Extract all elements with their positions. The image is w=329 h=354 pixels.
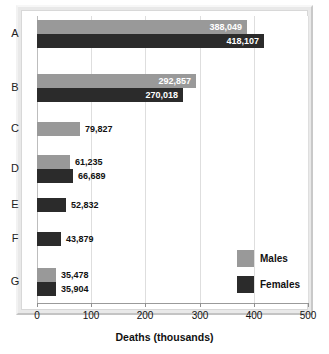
bar-value-label: 270,018 xyxy=(37,88,178,102)
bar-value-label: 35,904 xyxy=(61,282,89,296)
category-label-A: A xyxy=(0,27,30,39)
x-tick-label: 300 xyxy=(180,310,220,321)
legend-label-males: Males xyxy=(260,250,288,267)
gridline xyxy=(145,16,146,304)
bar-C-males xyxy=(37,122,80,136)
bar-value-label: 292,857 xyxy=(37,74,191,88)
category-label-F: F xyxy=(0,232,30,244)
bar-G-males xyxy=(37,268,56,282)
x-tick-mark xyxy=(91,303,92,307)
bar-value-label: 43,879 xyxy=(66,232,94,246)
category-label-G: G xyxy=(0,275,30,287)
bar-value-label: 79,827 xyxy=(85,122,113,136)
bar-D-males xyxy=(37,155,70,169)
bar-value-label: 35,478 xyxy=(61,268,89,282)
bar-F-females xyxy=(37,232,61,246)
bar-value-label: 418,107 xyxy=(37,34,259,48)
legend-swatch-females xyxy=(237,276,254,293)
category-label-D: D xyxy=(0,162,30,174)
bar-G-females xyxy=(37,282,56,296)
category-label-B: B xyxy=(0,81,30,93)
x-axis-line xyxy=(37,303,308,304)
x-tick-label: 200 xyxy=(125,310,165,321)
gridline xyxy=(254,16,255,304)
x-tick-mark xyxy=(254,303,255,307)
category-label-C: C xyxy=(0,122,30,134)
category-label-E: E xyxy=(0,198,30,210)
bar-value-label: 66,689 xyxy=(78,169,106,183)
bar-chart: 388,049418,107292,857270,01879,82761,235… xyxy=(0,0,329,354)
x-tick-mark xyxy=(308,303,309,307)
bar-value-label: 52,832 xyxy=(71,198,99,212)
x-tick-label: 0 xyxy=(17,310,57,321)
x-tick-label: 100 xyxy=(71,310,111,321)
bar-value-label: 388,049 xyxy=(37,20,242,34)
x-tick-mark xyxy=(37,303,38,307)
legend-label-females: Females xyxy=(260,276,300,293)
x-tick-label: 500 xyxy=(288,310,328,321)
gridline xyxy=(308,16,309,304)
x-tick-mark xyxy=(145,303,146,307)
legend-swatch-males xyxy=(237,250,254,267)
gridline xyxy=(200,16,201,304)
x-tick-mark xyxy=(200,303,201,307)
bar-D-females xyxy=(37,169,73,183)
bar-E-females xyxy=(37,198,66,212)
bar-value-label: 61,235 xyxy=(75,155,103,169)
x-tick-label: 400 xyxy=(234,310,274,321)
x-axis-title: Deaths (thousands) xyxy=(0,331,329,343)
